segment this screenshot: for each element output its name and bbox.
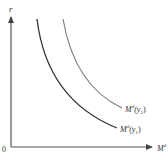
money-demand-diagram: r 0 Md Md(y2) Md(y1): [0, 0, 168, 156]
x-axis-label: Md: [156, 143, 167, 153]
origin-label: 0: [2, 145, 6, 154]
curve-md-y2: [63, 19, 122, 108]
curve-label-md-y2: Md(y2): [124, 104, 146, 115]
curve-label-md-y1: Md(y1): [119, 124, 141, 135]
y-axis-label: r: [9, 4, 13, 14]
curve-md-y1: [37, 19, 117, 128]
